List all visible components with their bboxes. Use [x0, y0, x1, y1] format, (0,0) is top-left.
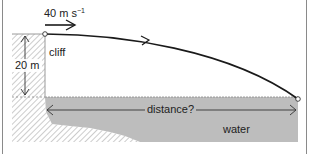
trajectory-path	[45, 34, 298, 99]
velocity-exponent: −1	[77, 7, 85, 14]
velocity-label: 40 m s−1	[44, 8, 85, 19]
distance-label: distance?	[147, 104, 194, 115]
height-label: 20 m	[15, 60, 39, 71]
launch-point	[43, 32, 48, 37]
velocity-value: 40 m s	[44, 7, 77, 19]
cliff-label: cliff	[49, 47, 65, 58]
diagram-canvas	[0, 0, 310, 154]
projectile-diagram: 40 m s−1 cliff 20 m distance? water	[0, 0, 310, 154]
water-label: water	[223, 124, 250, 135]
landing-point	[296, 97, 301, 102]
